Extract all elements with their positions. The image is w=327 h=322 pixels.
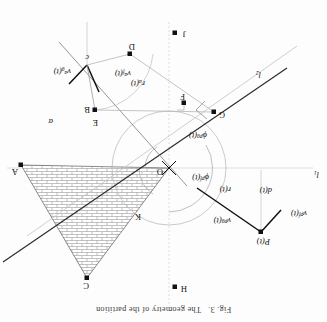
label-phi-pf-arg: (t)	[192, 173, 200, 183]
label-v-af: vaf(t)	[115, 68, 131, 78]
marker-J	[173, 31, 178, 36]
label-point-P: P(t)	[257, 238, 270, 247]
label-r-t: r(t)	[220, 186, 231, 195]
figure-upside-down-wrapper: Fig. 3.The geometry of the partition	[0, 0, 327, 322]
label-point-K: K	[135, 213, 141, 222]
label-point-G: G	[219, 111, 225, 120]
label-v-ag-sub: g	[62, 67, 65, 73]
label-ra-sub: a	[139, 79, 142, 85]
label-v-pg-base: v	[227, 216, 231, 226]
label-v-pf-base: v	[303, 209, 307, 219]
hatched-triangle-region	[21, 165, 169, 278]
label-v-pf: vpf(t)	[291, 210, 307, 219]
segment-B-c	[87, 65, 95, 110]
label-v-af-base: v	[127, 69, 131, 79]
label-v-ag-base: v	[67, 67, 71, 77]
axes-group	[7, 22, 313, 304]
label-v-ag-sup: a	[64, 70, 67, 76]
label-phi-pf-base: ϕ	[205, 173, 209, 183]
marker-D	[128, 52, 133, 57]
marker-C	[85, 276, 90, 281]
label-phi-pf: ϕpf(t)	[192, 174, 209, 183]
label-phi-pg: ϕpg(t)	[189, 132, 207, 141]
label-v-ag: vag(t)	[54, 66, 71, 76]
marker-B	[93, 108, 98, 113]
label-v-pg-arg: (t)	[214, 216, 222, 226]
label-v-pf-arg: (t)	[291, 209, 299, 219]
marker-P	[259, 230, 264, 235]
label-ra: ra(t)	[131, 78, 145, 88]
label-point-J: J	[183, 30, 186, 39]
label-ra-base: r	[142, 79, 145, 89]
label-v-pf-sup: pf	[299, 212, 303, 218]
auxiliary-segments	[87, 54, 214, 112]
label-point-D: D	[129, 43, 135, 52]
label-point-E: E	[93, 119, 98, 128]
label-origin-O: O	[157, 168, 163, 177]
marker-A	[19, 163, 24, 168]
label-l2: l2	[256, 69, 261, 79]
label-d-t: d(t)	[260, 187, 272, 196]
line-through-origin	[59, 42, 187, 186]
marker-G	[212, 110, 217, 115]
label-v-af-sup: a	[124, 72, 127, 78]
label-v-af-sub: f	[123, 69, 125, 75]
label-phi-pg-arg: (t)	[189, 131, 197, 141]
label-alpha: α	[49, 118, 53, 127]
label-point-A: A	[12, 168, 18, 177]
label-point-H: H	[181, 285, 187, 294]
c-velocity-vectors	[69, 65, 99, 92]
label-point-C: C	[83, 282, 89, 291]
label-v-pg: vpg(t)	[214, 217, 231, 226]
label-point-B: B	[84, 106, 90, 115]
line-l2-main	[3, 68, 287, 262]
label-phi-pf-sup: pf	[200, 176, 204, 182]
label-phi-pg-base: ϕ	[203, 131, 207, 141]
label-ra-arg: (t)	[131, 79, 139, 89]
label-point-c: c	[85, 54, 89, 63]
label-l1: l1	[314, 169, 319, 179]
marker-H	[173, 285, 178, 290]
label-l2-sub: 2	[256, 70, 259, 76]
figure-drawing	[0, 0, 327, 322]
label-l1-sub: 1	[314, 170, 317, 176]
label-phi-pg-sup: pg	[197, 134, 203, 140]
figure-page: Fig. 3.The geometry of the partition	[0, 0, 327, 322]
label-v-ag-arg: (t)	[54, 67, 62, 77]
label-v-pg-sup: pg	[222, 219, 228, 225]
label-point-F: F	[180, 93, 185, 102]
label-v-af-arg: (t)	[115, 69, 123, 79]
